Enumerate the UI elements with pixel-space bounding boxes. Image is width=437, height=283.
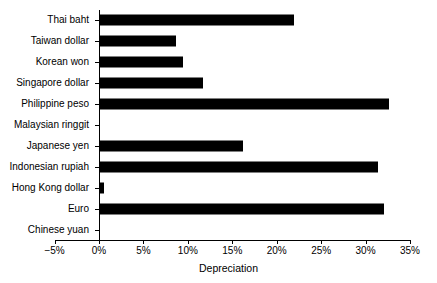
- category-label: Malaysian ringgit: [14, 119, 89, 131]
- y-axis-tick: [95, 230, 99, 231]
- category-label: Indonesian rupiah: [9, 161, 89, 173]
- y-axis-tick: [95, 209, 99, 210]
- x-axis-tick: [232, 240, 233, 244]
- category-label: Euro: [68, 203, 89, 215]
- x-axis-tick-label: 35%: [400, 245, 420, 257]
- bar: [99, 182, 104, 193]
- bar: [99, 99, 389, 110]
- x-axis-tick-label: 5%: [136, 245, 150, 257]
- x-axis-tick-label: 20%: [267, 245, 287, 257]
- x-axis-tick-label: 15%: [222, 245, 242, 257]
- y-axis-tick: [95, 125, 99, 126]
- category-label: Philippine peso: [21, 98, 89, 110]
- x-axis-tick-label: −5%: [44, 245, 64, 257]
- bar: [99, 161, 378, 172]
- bar: [99, 57, 183, 68]
- y-axis-tick: [95, 20, 99, 21]
- category-label: Thai baht: [47, 14, 89, 26]
- x-axis-tick-label: 30%: [356, 245, 376, 257]
- y-axis-tick: [95, 41, 99, 42]
- category-label: Korean won: [36, 56, 89, 68]
- category-label: Taiwan dollar: [31, 35, 89, 47]
- category-label: Japanese yen: [27, 140, 89, 152]
- y-axis-tick: [95, 62, 99, 63]
- bar: [99, 203, 384, 214]
- x-axis-tick: [277, 240, 278, 244]
- bar: [99, 36, 176, 47]
- x-axis-tick-label: 25%: [311, 245, 331, 257]
- x-axis-tick: [143, 240, 144, 244]
- bar: [99, 15, 294, 26]
- x-axis-tick: [410, 240, 411, 244]
- x-axis-tick-label: 0%: [92, 245, 106, 257]
- x-axis-tick: [55, 240, 56, 244]
- y-axis-tick: [95, 83, 99, 84]
- y-axis-tick: [95, 188, 99, 189]
- x-axis-title-text: Depreciation: [199, 262, 258, 274]
- x-axis-tick: [99, 240, 100, 244]
- y-axis-tick: [95, 167, 99, 168]
- category-label: Hong Kong dollar: [12, 182, 89, 194]
- x-axis-tick-label: 10%: [178, 245, 198, 257]
- depreciation-bar-chart: Thai bahtTaiwan dollarKorean wonSingapor…: [0, 0, 437, 283]
- bar: [99, 140, 243, 151]
- category-label: Singapore dollar: [16, 77, 89, 89]
- bar: [99, 78, 203, 89]
- y-axis-tick: [95, 146, 99, 147]
- x-axis-tick: [188, 240, 189, 244]
- x-axis-tick: [366, 240, 367, 244]
- x-axis-tick: [321, 240, 322, 244]
- x-axis-title: Depreciation: [0, 262, 437, 274]
- y-axis-tick: [95, 104, 99, 105]
- category-label: Chinese yuan: [28, 224, 89, 236]
